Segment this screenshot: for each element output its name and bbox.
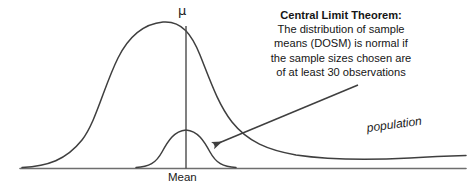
figure-canvas: μ Mean population Central Limit Theorem:… (0, 0, 473, 193)
annotation-line-3: the sample sizes chosen are (243, 51, 439, 65)
annotation-line-4: of at least 30 observations (243, 65, 439, 79)
annotation-arrow (214, 85, 358, 145)
annotation-title: Central Limit Theorem: (243, 8, 439, 22)
annotation-line-2: means (DOSM) is normal if (243, 36, 439, 50)
annotation-line-1: The distribution of sample (243, 22, 439, 36)
mean-axis-label: Mean (168, 172, 197, 184)
annotation-text-block: Central Limit Theorem: The distribution … (243, 8, 439, 79)
mu-symbol-label: μ (178, 4, 186, 17)
